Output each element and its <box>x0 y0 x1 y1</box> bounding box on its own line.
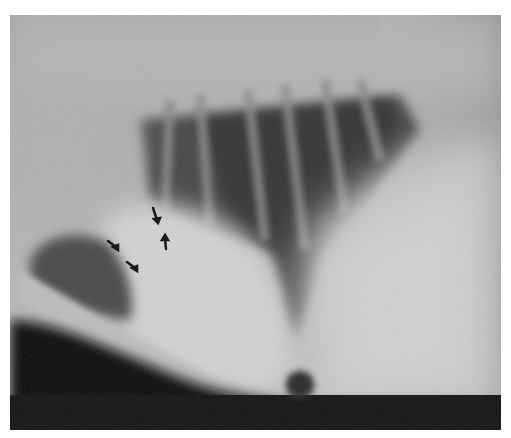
radiograph-frame <box>10 15 501 430</box>
radiograph-image <box>10 15 501 430</box>
